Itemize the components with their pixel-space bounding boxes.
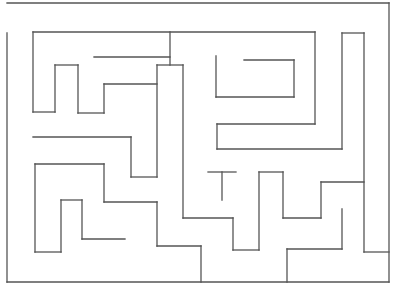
maze <box>0 0 394 299</box>
